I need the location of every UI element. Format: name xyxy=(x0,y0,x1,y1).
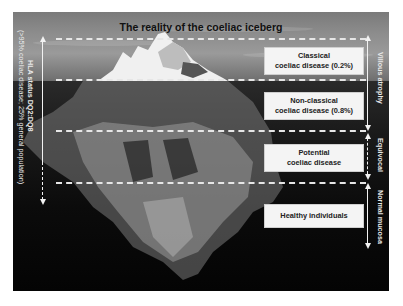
arrow-up-icon xyxy=(365,133,371,139)
tier-divider xyxy=(56,130,366,132)
tier-label-line: coeliac disease (0.2%) xyxy=(275,61,353,71)
tier-label-line: coeliac disease (0.8%) xyxy=(275,106,353,116)
tier-label-potential: Potentialcoeliac disease xyxy=(264,144,364,172)
tier-divider xyxy=(56,38,366,40)
arrow-down-icon xyxy=(365,243,371,249)
hla-status-label: HLA status DQ2:DQ8 xyxy=(26,60,35,132)
tier-label-healthy: Healthy individuals xyxy=(264,204,364,228)
hla-axis-line xyxy=(42,41,43,162)
arrow-up-icon xyxy=(365,183,371,189)
tier-label-line: Non-classical xyxy=(275,96,353,106)
equivocal-axis-line xyxy=(367,138,368,174)
waterline-divider xyxy=(56,79,366,81)
hla-axis-dashed-line xyxy=(42,162,43,200)
hla-prevalence-label: (>95% coeliac disease; 25% general popul… xyxy=(17,30,26,184)
tier-divider xyxy=(56,182,366,184)
tier-label-non-classical: Non-classicalcoeliac disease (0.8%) xyxy=(264,92,364,120)
tier-label-line: Healthy individuals xyxy=(280,211,347,221)
arrow-up-icon xyxy=(40,36,46,42)
arrow-down-icon xyxy=(365,125,371,131)
normal-axis-line xyxy=(367,188,368,244)
villous-atrophy-label: Villous atrophy xyxy=(376,52,385,104)
arrow-up-icon xyxy=(365,35,371,41)
tier-label-line: coeliac disease xyxy=(287,158,341,168)
tier-label-line: Potential xyxy=(287,148,341,158)
diagram-title: The reality of the coeliac iceberg xyxy=(13,21,389,33)
equivocal-label: Equivocal xyxy=(376,138,385,172)
arrow-down-icon xyxy=(365,174,371,180)
tier-label-classical: Classicalcoeliac disease (0.2%) xyxy=(264,47,364,75)
arrow-down-icon xyxy=(40,199,46,205)
normal-mucosa-label: Normal mucosa xyxy=(376,190,385,244)
tier-label-line: Classical xyxy=(275,51,353,61)
villous-axis-line xyxy=(367,40,368,126)
iceberg-diagram: The reality of the coeliac iceberg Class… xyxy=(13,12,389,291)
